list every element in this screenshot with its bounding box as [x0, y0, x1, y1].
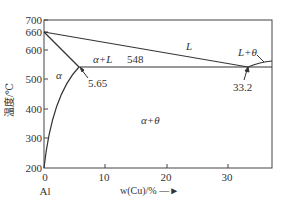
label-alpha-theta: α+θ: [141, 114, 160, 126]
label-alpha-liquid: α+L: [93, 53, 112, 65]
y-tick-700: 700: [26, 14, 43, 26]
plot-frame: [44, 20, 272, 168]
x-tick-0: 0: [42, 171, 48, 183]
label-alpha-composition: 5.65: [88, 77, 108, 89]
y-tick-600: 600: [26, 44, 43, 56]
label-eutectic-temp: 548: [127, 53, 144, 65]
x-tick-20: 20: [161, 171, 173, 183]
y-tick-200: 200: [26, 162, 43, 174]
y-tick-660: 660: [26, 26, 43, 38]
y-tick-500: 500: [26, 73, 43, 85]
y-axis-title: 温度/℃: [3, 83, 15, 117]
alpha-solvus-line: [44, 67, 79, 168]
label-eutectic-composition: 33.2: [233, 81, 252, 93]
x-origin-al: Al: [40, 185, 51, 197]
y-tick-300: 300: [26, 132, 43, 144]
x-axis: [105, 164, 228, 168]
y-axis: [44, 20, 48, 138]
x-tick-10: 10: [99, 171, 111, 183]
x-axis-title: w(Cu)/% —►: [120, 185, 179, 197]
label-liquid: L: [185, 40, 192, 52]
label-alpha: α: [56, 69, 62, 81]
label-liquid-theta: L+θ: [237, 46, 258, 58]
x-tick-30: 30: [222, 171, 234, 183]
phase-diagram: 700 660 600 500 400 300 200 温度/℃ 0 Al 10…: [0, 0, 285, 209]
y-tick-400: 400: [26, 103, 43, 115]
